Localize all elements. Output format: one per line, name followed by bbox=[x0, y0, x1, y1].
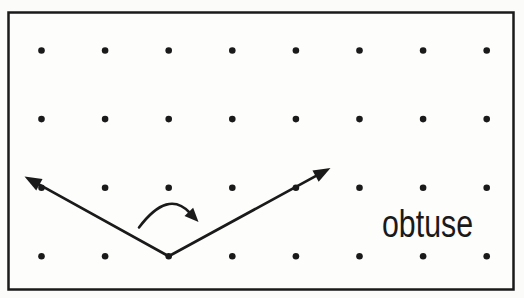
grid-dot bbox=[420, 116, 427, 123]
grid-dot bbox=[102, 184, 109, 191]
grid-dot bbox=[165, 184, 172, 191]
grid-dot bbox=[102, 253, 109, 260]
grid-dot bbox=[102, 116, 109, 123]
grid-dot bbox=[102, 47, 109, 54]
grid-dot bbox=[229, 253, 236, 260]
angle-type-label: obtuse bbox=[382, 203, 473, 245]
grid-dot bbox=[293, 116, 300, 123]
grid-dot bbox=[229, 116, 236, 123]
grid-dot bbox=[483, 253, 490, 260]
grid-dot bbox=[483, 47, 490, 54]
grid-dot bbox=[38, 116, 45, 123]
grid-dot bbox=[165, 47, 172, 54]
grid-dot bbox=[293, 47, 300, 54]
grid-dot bbox=[356, 253, 363, 260]
grid-dot bbox=[293, 253, 300, 260]
board-frame bbox=[9, 13, 514, 290]
grid-dot bbox=[356, 47, 363, 54]
grid-dot bbox=[356, 184, 363, 191]
grid-dot bbox=[420, 253, 427, 260]
grid-dot bbox=[420, 184, 427, 191]
geoboard-figure: obtuse bbox=[0, 0, 524, 298]
grid-dot bbox=[38, 47, 45, 54]
grid-dot bbox=[483, 116, 490, 123]
grid-dot bbox=[420, 47, 427, 54]
worksheet-scan: obtuse bbox=[0, 0, 524, 298]
grid-dot bbox=[229, 184, 236, 191]
geoboard-drawing bbox=[9, 13, 514, 290]
grid-dot bbox=[356, 116, 363, 123]
grid-dot bbox=[38, 253, 45, 260]
grid-dot bbox=[229, 47, 236, 54]
grid-dot bbox=[483, 184, 490, 191]
grid-dot bbox=[165, 116, 172, 123]
